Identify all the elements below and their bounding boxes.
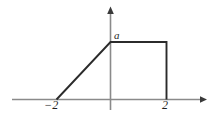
x-axis bbox=[12, 96, 207, 103]
x-axis-arrowhead-icon bbox=[200, 96, 207, 103]
x-tick-label-neg2: −2 bbox=[44, 99, 59, 111]
function-curve-path bbox=[57, 42, 167, 100]
figure-container: −2 2 a bbox=[0, 0, 212, 121]
function-curve bbox=[57, 42, 167, 100]
height-label-a: a bbox=[114, 30, 120, 41]
y-axis-arrowhead-icon bbox=[107, 7, 114, 15]
function-plot bbox=[0, 0, 212, 121]
x-tick-label-2: 2 bbox=[162, 99, 168, 111]
y-axis bbox=[107, 7, 114, 111]
